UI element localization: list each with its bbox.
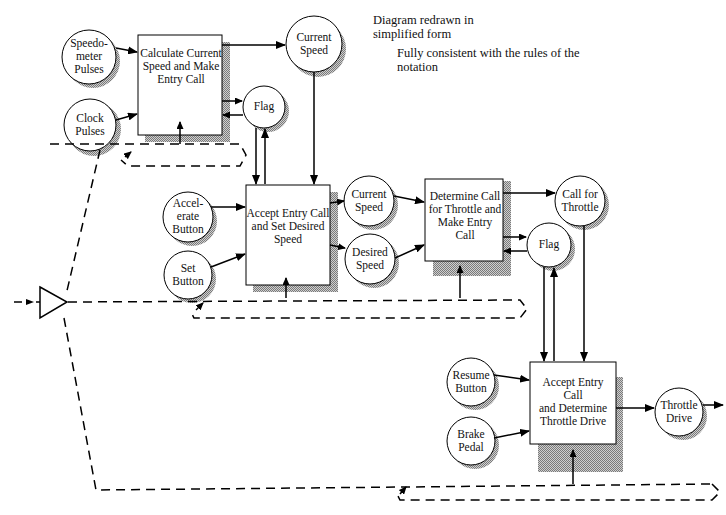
store-label-speedometer: Speedo- meter Pulses — [62, 37, 116, 76]
note-line-2: simplified form — [373, 28, 451, 41]
store-label-accelerate: Accel- erate Button — [163, 197, 213, 236]
store-label-call-for-throttle: Call for Throttle — [555, 188, 605, 214]
store-label-current-speed-2: Current Speed — [344, 188, 394, 214]
store-label-flag-1: Flag — [243, 100, 285, 113]
store-label-current-speed-1: Current Speed — [286, 31, 342, 57]
store-label-flag-2: Flag — [527, 238, 571, 251]
store-label-resume: Resume Button — [446, 369, 496, 395]
process-label-accept-entry-set-desired: Accept Entry Call and Set Desired Speed — [244, 207, 332, 246]
note-line-4: notation — [397, 61, 438, 74]
process-label-accept-entry-throttle: Accept Entry Call and Determine Throttle… — [530, 376, 616, 428]
store-label-throttle-drive: Throttle Drive — [654, 399, 704, 425]
store-label-set-button: Set Button — [163, 262, 213, 288]
trigger-input-arrow-icon — [26, 299, 34, 305]
process-label-determine-call: Determine Call for Throttle and Make Ent… — [425, 190, 505, 242]
activation-ticks — [125, 122, 573, 494]
trigger-triangle-icon — [40, 287, 67, 318]
store-label-brake: Brake Pedal — [446, 428, 496, 454]
store-label-clock: Clock Pulses — [64, 112, 116, 138]
process-label-calculate: Calculate Current Speed and Make Entry C… — [138, 47, 224, 86]
store-label-desired-speed: Desired Speed — [345, 246, 395, 272]
note-line-3: Fully consistent with the rules of the — [397, 47, 580, 60]
note-line-1: Diagram redrawn in — [373, 14, 474, 27]
